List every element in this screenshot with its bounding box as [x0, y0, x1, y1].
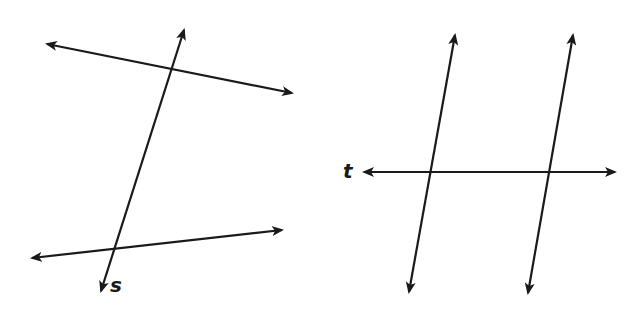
diagram-canvas	[0, 0, 644, 311]
bottom-line	[32, 230, 282, 258]
label-s: s	[110, 275, 122, 295]
left-parallel-line	[409, 35, 455, 292]
transversal-s	[101, 30, 184, 291]
right-parallel-line	[528, 35, 573, 293]
label-t: t	[343, 161, 353, 181]
top-line	[47, 44, 292, 93]
